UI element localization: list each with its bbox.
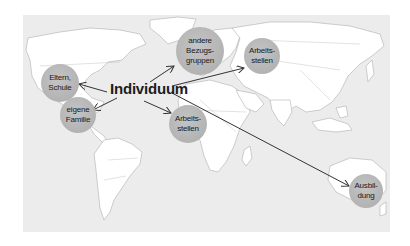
node-label-line: Schule [48,83,71,93]
node-andere-bezugsgruppen: andere Bezugs- gruppen [176,27,224,75]
node-label-line: Arbeits- [175,114,201,124]
node-eltern-schule: Eltern, Schule [41,64,79,102]
node-label-line: stellen [249,56,275,66]
node-eigene-familie: eigene Familie [60,97,96,133]
node-label-line: Arbeits- [249,46,275,56]
node-label-line: stellen [175,124,201,134]
node-label-line: Bezugs- [186,46,214,56]
center-label-individuum: Individuum [110,80,188,97]
node-ausbildung: Ausbil- dung [349,174,383,208]
node-label-line: Familie [66,115,90,125]
node-label-line: Ausbil- [354,181,377,191]
node-label-line: eigene [66,105,90,115]
arrow-to-arbeitsstellen-afrika [144,101,171,113]
arrow-to-eigene-familie [93,98,117,110]
node-label-line: gruppen [186,56,214,66]
arrow-to-eltern-schule [79,84,107,92]
node-label-line: andere [186,36,214,46]
node-label-line: dung [354,191,377,201]
node-arbeitsstellen-eurasien: Arbeits- stellen [244,38,280,74]
node-label-line: Eltern, [48,73,71,83]
node-arbeitsstellen-afrika: Arbeits- stellen [169,105,207,143]
